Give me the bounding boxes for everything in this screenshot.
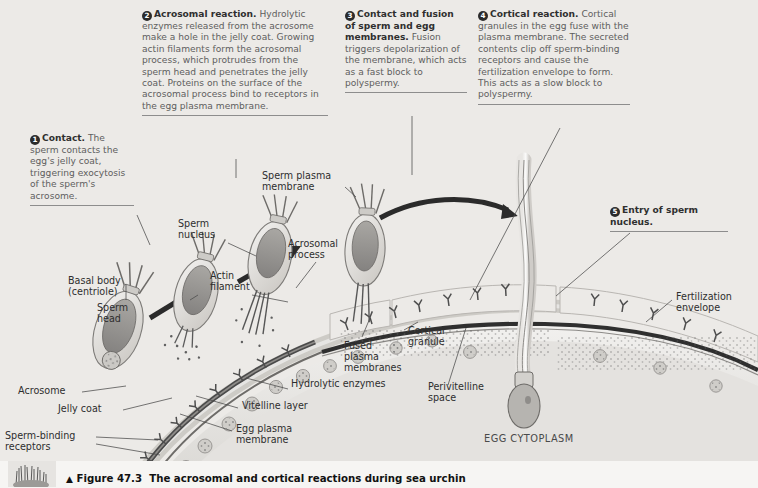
callout-5: 5Entry of sperm nucleus. bbox=[610, 205, 728, 232]
callout-1-title: Contact. bbox=[42, 133, 85, 143]
callout-3-number: 3 bbox=[345, 11, 355, 21]
label-jelly-coat: Jelly coat bbox=[58, 403, 102, 414]
callout-4: 4Cortical reaction. Cortical granules in… bbox=[478, 9, 630, 105]
label-fused-plasma-membranes: Fused plasma membranes bbox=[344, 340, 402, 374]
figure-title: The acrosomal and cortical reactions dur… bbox=[149, 473, 465, 484]
label-sperm-binding-receptors: Sperm-binding receptors bbox=[5, 430, 75, 452]
figure-number: Figure 47.3 bbox=[76, 473, 142, 484]
label-fertilization-envelope: Fertilization envelope bbox=[676, 291, 732, 313]
callout-2-number: 2 bbox=[142, 11, 152, 21]
callout-2: 2Acrosomal reaction. Hydrolytic enzymes … bbox=[142, 9, 328, 116]
callout-1-rule bbox=[30, 205, 134, 206]
label-acrosomal-process: Acrosomal process bbox=[288, 238, 338, 260]
callout-1: 1Contact. The sperm contacts the egg's j… bbox=[30, 133, 134, 206]
process-arrow-3 bbox=[380, 200, 518, 219]
label-egg-plasma-membrane: Egg plasma membrane bbox=[236, 423, 292, 445]
label-vitelline-layer: Vitelline layer bbox=[242, 400, 308, 411]
label-cortical-granule: Cortical granule bbox=[408, 325, 445, 347]
callout-3: 3Contact and fusion of sperm and egg mem… bbox=[345, 9, 467, 93]
label-sperm-nucleus: Sperm nucleus bbox=[178, 218, 215, 240]
figure-caption: ▲ Figure 47.3 The acrosomal and cortical… bbox=[66, 473, 466, 484]
label-sperm-plasma-membrane: Sperm plasma membrane bbox=[262, 170, 331, 192]
callout-5-number: 5 bbox=[610, 207, 620, 217]
callout-2-rule bbox=[142, 115, 328, 116]
caption-triangle-icon: ▲ bbox=[66, 474, 73, 484]
callout-4-title: Cortical reaction. bbox=[490, 9, 579, 19]
label-perivitelline-space: Perivitelline space bbox=[428, 381, 484, 403]
label-acrosome: Acrosome bbox=[18, 385, 65, 396]
label-basal-body: Basal body (centriole) bbox=[68, 275, 121, 297]
label-hydrolytic-enzymes: Hydrolytic enzymes bbox=[291, 378, 386, 389]
caption-bar: ▲ Figure 47.3 The acrosomal and cortical… bbox=[0, 461, 758, 488]
callout-4-body: Cortical granules in the egg fuse with t… bbox=[478, 9, 629, 99]
label-egg-cytoplasm: EGG CYTOPLASM bbox=[484, 433, 574, 444]
callout-5-rule bbox=[610, 231, 728, 232]
callout-2-body: Hydrolytic enzymes released from the acr… bbox=[142, 9, 319, 111]
callout-1-body: The sperm contacts the egg's jelly coat,… bbox=[30, 133, 125, 201]
callout-4-number: 4 bbox=[478, 11, 488, 21]
callout-2-title: Acrosomal reaction. bbox=[154, 9, 257, 19]
callout-5-title: Entry of sperm nucleus. bbox=[610, 205, 698, 227]
label-actin-filament: Actin filament bbox=[210, 270, 250, 292]
caption-thumbnail bbox=[8, 461, 56, 487]
callout-3-rule bbox=[345, 92, 467, 93]
callout-4-rule bbox=[478, 104, 630, 105]
figure-canvas: 1Contact. The sperm contacts the egg's j… bbox=[0, 0, 758, 488]
label-sperm-head: Sperm head bbox=[97, 302, 128, 324]
callout-1-number: 1 bbox=[30, 135, 40, 145]
